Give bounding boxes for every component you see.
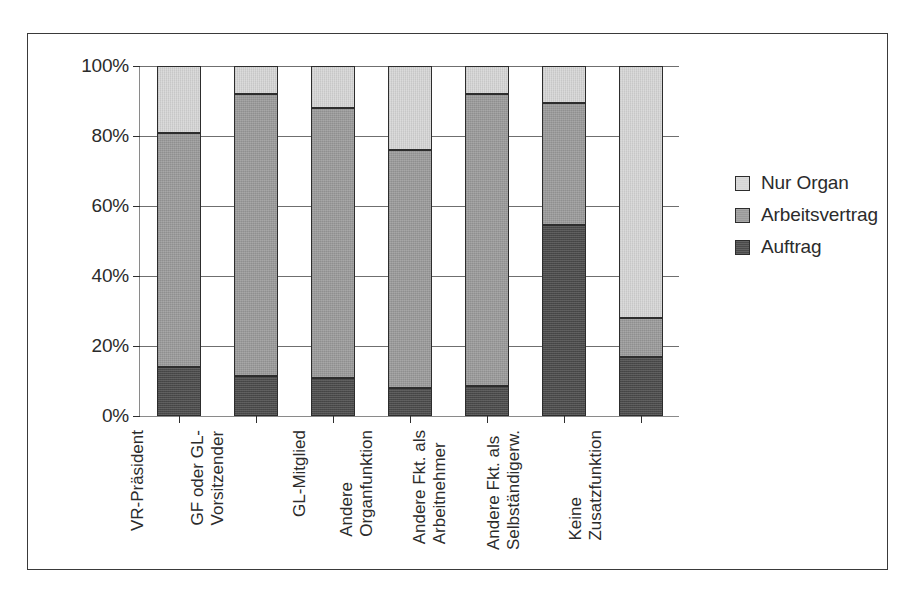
bar-slot: KeineZusatzfunktion	[603, 66, 680, 416]
bar-segment[interactable]	[465, 94, 509, 386]
y-axis-tick-label: 0%	[102, 405, 129, 427]
x-axis-tick	[564, 416, 565, 423]
x-axis-category-label-line: GF oder GL-	[188, 430, 208, 525]
y-axis-tick-label: 60%	[92, 195, 129, 217]
stacked-bar[interactable]	[542, 66, 586, 416]
legend-swatch-icon	[735, 208, 750, 223]
x-axis-category-label-line: Zusatzfunktion	[586, 430, 606, 541]
bar-segment[interactable]	[157, 133, 201, 368]
stacked-bar[interactable]	[311, 66, 355, 416]
x-axis-category-label-line: GL-Mitglied	[289, 430, 309, 517]
bar-segment[interactable]	[311, 66, 355, 108]
x-axis-category-label: GF oder GL-Vorsitzender	[188, 430, 228, 525]
bar-slot: AndereOrganfunktion	[371, 66, 448, 416]
x-axis-category-label-line: VR-Präsident	[128, 430, 148, 531]
stacked-bar[interactable]	[388, 66, 432, 416]
chart-legend: Nur OrganArbeitsvertragAuftrag	[735, 167, 878, 263]
bar-segment[interactable]	[542, 225, 586, 416]
bar-segment[interactable]	[388, 388, 432, 416]
x-axis-category-label: VR-Präsident	[128, 430, 148, 531]
tick-mark	[133, 346, 140, 347]
bar-segment[interactable]	[619, 66, 663, 318]
tick-mark	[133, 276, 140, 277]
x-axis-category-label-line: Andere Fkt. als	[410, 430, 430, 544]
legend-item-label: Auftrag	[761, 236, 822, 258]
bar-segment[interactable]	[619, 318, 663, 357]
bar-segment[interactable]	[311, 108, 355, 378]
bar-slot: GL-Mitglied	[294, 66, 371, 416]
bar-segment[interactable]	[542, 103, 586, 226]
plot-area: 100%80%60%40%20%0% VR-PräsidentGF oder G…	[139, 66, 679, 416]
x-axis-category-label: Andere Fkt. alsSelbständigerw.	[484, 430, 524, 550]
legend-item[interactable]: Nur Organ	[735, 167, 878, 199]
bar-slot: GF oder GL-Vorsitzender	[217, 66, 294, 416]
x-axis-category-label: Andere Fkt. alsArbeitnehmer	[410, 430, 450, 544]
tick-mark	[133, 136, 140, 137]
x-axis-tick	[333, 416, 334, 423]
x-axis-category-label-line: Vorsitzender	[208, 430, 228, 525]
legend-item[interactable]: Auftrag	[735, 231, 878, 263]
stacked-bar[interactable]	[157, 66, 201, 416]
tick-mark	[133, 416, 140, 417]
y-axis-tick-label: 20%	[92, 335, 129, 357]
bar-segment[interactable]	[234, 66, 278, 94]
y-axis-tick-label: 80%	[92, 125, 129, 147]
legend-item[interactable]: Arbeitsvertrag	[735, 199, 878, 231]
stacked-bar[interactable]	[619, 66, 663, 416]
legend-item-label: Arbeitsvertrag	[761, 204, 878, 226]
x-axis-tick	[487, 416, 488, 423]
y-axis-tick-label: 40%	[92, 265, 129, 287]
bar-segment[interactable]	[157, 66, 201, 133]
legend-item-label: Nur Organ	[761, 172, 849, 194]
x-axis-tick	[410, 416, 411, 423]
bar-slot: VR-Präsident	[140, 66, 217, 416]
x-axis-category-label: GL-Mitglied	[289, 430, 309, 517]
stacked-bar[interactable]	[465, 66, 509, 416]
x-axis-category-label-line: Arbeitnehmer	[430, 430, 450, 544]
tick-mark	[133, 206, 140, 207]
bar-segment[interactable]	[388, 150, 432, 388]
bar-slot: Andere Fkt. alsSelbständigerw.	[526, 66, 603, 416]
bar-segment[interactable]	[234, 376, 278, 416]
x-axis-tick	[179, 416, 180, 423]
y-axis-tick-label: 100%	[81, 55, 129, 77]
tick-mark	[133, 66, 140, 67]
x-axis-category-label-line: Andere	[337, 430, 357, 537]
bar-segment[interactable]	[311, 378, 355, 417]
bar-segment[interactable]	[465, 386, 509, 416]
bar-segment[interactable]	[619, 357, 663, 417]
x-axis-category-label-line: Andere Fkt. als	[484, 430, 504, 550]
x-axis-category-label: AndereOrganfunktion	[337, 430, 377, 537]
x-axis-category-label-line: Organfunktion	[357, 430, 377, 537]
x-axis-category-label-line: Selbständigerw.	[504, 430, 524, 550]
bar-segment[interactable]	[157, 367, 201, 416]
bar-segment[interactable]	[234, 94, 278, 376]
x-axis-tick	[256, 416, 257, 423]
chart-figure-frame: 100%80%60%40%20%0% VR-PräsidentGF oder G…	[27, 33, 888, 570]
x-axis-category-label: KeineZusatzfunktion	[566, 430, 606, 541]
stacked-bar[interactable]	[234, 66, 278, 416]
x-axis-category-label-line: Keine	[566, 430, 586, 541]
x-axis-tick	[641, 416, 642, 423]
bar-segment[interactable]	[465, 66, 509, 94]
bar-segment[interactable]	[388, 66, 432, 150]
bar-slot: Andere Fkt. alsArbeitnehmer	[449, 66, 526, 416]
bar-segment[interactable]	[542, 66, 586, 103]
legend-swatch-icon	[735, 240, 750, 255]
legend-swatch-icon	[735, 176, 750, 191]
